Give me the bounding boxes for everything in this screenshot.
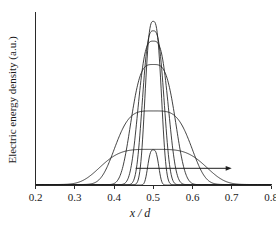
x-tick-label-0.6: 0.6 [186,191,200,203]
x-tick-label-0.5: 0.5 [146,191,160,203]
x-tick-label-0.8: 0.8 [264,191,276,203]
x-tick-label-0.7: 0.7 [225,191,239,203]
y-axis-title: Electric energy density (a.u.) [6,36,19,163]
x-axis-ticks-group [36,186,272,190]
electric-energy-density-chart: 0.20.30.40.50.60.70.8 x / d Electric ene… [0,0,276,225]
x-tick-label-0.3: 0.3 [68,191,82,203]
x-tick-label-0.2: 0.2 [29,191,43,203]
curve-profile-5-narrower [36,31,272,185]
curve-profile-1-broadest [36,149,272,184]
trend-arrow-head-icon [226,166,232,171]
curve-profile-3-medium [36,65,272,185]
curve-profile-4-narrow [36,41,272,185]
curve-profile-6-narrowest [36,21,272,185]
curve-profile-2-broad [36,111,272,185]
x-axis-title: x / d [129,206,152,220]
curve-series-group [36,21,272,185]
x-tick-label-0.4: 0.4 [107,191,121,203]
curve-profile-7-low-spike [36,150,272,185]
x-axis-tick-labels-group: 0.20.30.40.50.60.70.8 [29,191,276,203]
figure-container: 0.20.30.40.50.60.70.8 x / d Electric ene… [0,0,276,225]
